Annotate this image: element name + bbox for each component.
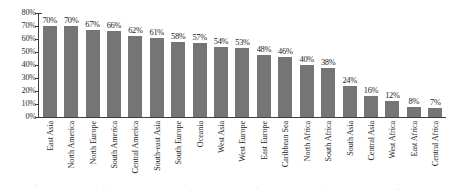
bar[interactable]: [343, 86, 357, 117]
x-axis-tick-label: Oceania: [195, 121, 204, 147]
bar-group[interactable]: 24%: [339, 13, 360, 117]
x-axis-category: South-east Asia: [146, 119, 167, 194]
x-axis-category: West Europe: [232, 119, 253, 194]
bar-value-label: 7%: [422, 98, 449, 107]
plot-area: 70%70%67%66%62%61%58%57%54%53%48%46%40%3…: [39, 13, 446, 117]
x-axis-tick-label: West Europe: [238, 121, 247, 162]
y-axis-tick-mark: [35, 13, 38, 14]
y-axis-tick-label: 40%: [6, 61, 36, 69]
bar[interactable]: [428, 108, 442, 117]
x-axis-tick-label: Central America: [131, 121, 140, 173]
bar[interactable]: [128, 36, 142, 117]
x-axis-tick-label: West Africa: [388, 121, 397, 159]
y-axis-tick-label: 60%: [6, 35, 36, 43]
x-axis-tick-label: South Africa: [324, 121, 333, 161]
bar[interactable]: [214, 47, 228, 117]
x-axis-category: West Asia: [210, 119, 231, 194]
y-axis-tick-mark: [35, 39, 38, 40]
bar-group[interactable]: 16%: [360, 13, 381, 117]
bar-value-label: 24%: [336, 76, 363, 85]
x-axis-category: South Asia: [339, 119, 360, 194]
y-axis-tick-label: 20%: [6, 87, 36, 95]
x-axis-category: West Africa: [382, 119, 403, 194]
x-axis-tick-label: East Europe: [259, 121, 268, 160]
x-axis-tick-label: South-east Asia: [152, 121, 161, 171]
bar[interactable]: [43, 26, 57, 117]
bar[interactable]: [278, 57, 292, 117]
bar-group[interactable]: 53%: [232, 13, 253, 117]
bar[interactable]: [364, 96, 378, 117]
bar[interactable]: [235, 48, 249, 117]
bar[interactable]: [150, 38, 164, 117]
x-axis-tick-label: East Asia: [45, 121, 54, 151]
bar[interactable]: [86, 30, 100, 117]
x-axis-tick-label: West Asia: [217, 121, 226, 153]
y-axis-tick-mark: [35, 104, 38, 105]
bar[interactable]: [257, 55, 271, 117]
x-axis-category: East Africa: [403, 119, 424, 194]
x-axis-tick-label: North Europe: [88, 121, 97, 165]
x-axis-tick-label: South Europe: [174, 121, 183, 165]
bar-group[interactable]: 70%: [39, 13, 60, 117]
x-axis-tick-label: North Africa: [302, 121, 311, 161]
bar[interactable]: [193, 43, 207, 117]
x-axis-category: North Africa: [296, 119, 317, 194]
x-axis-line: [38, 117, 446, 118]
x-axis-category: Central Africa: [425, 119, 446, 194]
y-axis-tick-mark: [35, 91, 38, 92]
x-axis-category: Oceania: [189, 119, 210, 194]
y-axis-tick-mark: [35, 65, 38, 66]
x-axis-category: North Europe: [82, 119, 103, 194]
x-axis-category: North America: [60, 119, 81, 194]
bar[interactable]: [300, 65, 314, 117]
x-axis-tick-label: East Africa: [409, 121, 418, 157]
y-axis-tick-label: 10%: [6, 100, 36, 108]
bar-group[interactable]: 46%: [275, 13, 296, 117]
x-axis-tick-label: South America: [109, 121, 118, 169]
y-axis-tick-mark: [35, 117, 38, 118]
y-axis-tick-mark: [35, 26, 38, 27]
x-axis-category: East Asia: [39, 119, 60, 194]
bar-chart-figure: 0%10%20%30%40%50%60%70%80% 70%70%67%66%6…: [0, 0, 452, 194]
x-axis-tick-label: South Asia: [345, 121, 354, 156]
bar-value-label: 38%: [315, 58, 342, 67]
x-axis-category: South Europe: [168, 119, 189, 194]
bar[interactable]: [407, 107, 421, 117]
y-axis-tick-label: 80%: [6, 9, 36, 17]
bar-group[interactable]: 58%: [168, 13, 189, 117]
x-axis-category: East Europe: [253, 119, 274, 194]
y-axis-tick-mark: [35, 78, 38, 79]
x-axis-tick-label: Caribbean Sea: [281, 121, 290, 167]
x-axis-category: Central Asia: [360, 119, 381, 194]
x-axis-category: South Africa: [317, 119, 338, 194]
x-axis-tick-label: Central Africa: [431, 121, 440, 166]
x-axis-tick-label: North America: [67, 121, 76, 169]
y-axis-tick-label: 50%: [6, 48, 36, 56]
x-axis-category: Caribbean Sea: [275, 119, 296, 194]
bar-group[interactable]: 61%: [146, 13, 167, 117]
bar-group[interactable]: 54%: [210, 13, 231, 117]
y-axis: 0%10%20%30%40%50%60%70%80%: [6, 10, 36, 120]
bar-group[interactable]: 7%: [425, 13, 446, 117]
x-axis-category: Central America: [125, 119, 146, 194]
bar[interactable]: [321, 68, 335, 117]
y-axis-tick-label: 70%: [6, 22, 36, 30]
x-axis: East AsiaNorth AmericaNorth EuropeSouth …: [39, 119, 446, 194]
bar-group[interactable]: 48%: [253, 13, 274, 117]
bar[interactable]: [385, 101, 399, 117]
bar-group[interactable]: 57%: [189, 13, 210, 117]
x-axis-category: South America: [103, 119, 124, 194]
bar[interactable]: [107, 31, 121, 117]
y-axis-tick-mark: [35, 52, 38, 53]
y-axis-tick-label: 0%: [6, 113, 36, 121]
bar[interactable]: [171, 42, 185, 117]
bar-group[interactable]: 38%: [317, 13, 338, 117]
y-axis-tick-label: 30%: [6, 74, 36, 82]
bar[interactable]: [64, 26, 78, 117]
x-axis-tick-label: Central Asia: [367, 121, 376, 161]
